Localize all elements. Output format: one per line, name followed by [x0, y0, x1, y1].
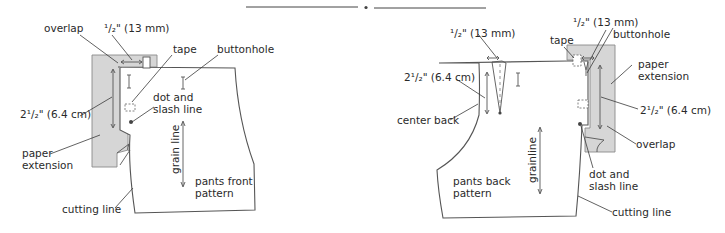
back-label-center-back: center back [397, 114, 460, 126]
front-label-buttonhole: buttonhole [217, 43, 274, 55]
front-label-two-half-inch: 2¹/₂" (6.4 cm) [20, 108, 91, 120]
front-label-grain-line: grain line [169, 125, 181, 174]
front-label-overlap: overlap [44, 22, 84, 34]
front-label-tape: tape [173, 43, 197, 55]
back-label-buttonhole: buttonhole [613, 28, 670, 40]
back-label-overlap: overlap [636, 138, 676, 150]
section-separator [246, 6, 486, 9]
front-label-paper-2: extension [22, 159, 73, 171]
front-label-pattern-1: pants front [195, 175, 253, 187]
back-label-paper-2: extension [638, 70, 689, 82]
back-label-pattern-2: pattern [453, 187, 492, 199]
front-label-dot-slash-1: dot and [153, 91, 193, 103]
back-label-tape: tape [550, 34, 574, 46]
back-label-paper-1: paper [638, 58, 669, 70]
back-label-two-half-inch-dart: 2¹/₂" (6.4 cm) [404, 71, 475, 83]
back-label-two-half-inch-ext: 2¹/₂" (6.4 cm) [640, 104, 711, 116]
back-label-half-inch-dart: ¹/₂" (13 mm) [450, 27, 515, 39]
back-label-grainline: grainline [526, 137, 538, 183]
front-label-half-inch: ¹/₂" (13 mm) [104, 22, 169, 34]
back-label-pattern-1: pants back [453, 175, 512, 187]
back-label-cutting-line: cutting line [612, 206, 671, 218]
front-label-cutting-line: cutting line [62, 203, 121, 215]
front-pattern-outline [118, 67, 255, 213]
back-label-half-inch-ext: ¹/₂" (13 mm) [573, 16, 638, 28]
front-label-pattern-2: pattern [195, 187, 234, 199]
pants-pattern-zipper-diagram: overlap ¹/₂" (13 mm) tape buttonhole 2¹/… [0, 0, 725, 233]
back-label-dot-slash-1: dot and [589, 168, 629, 180]
front-label-dot-slash-2: slash line [153, 103, 202, 115]
back-label-dot-slash-2: slash line [589, 180, 638, 192]
front-label-paper-1: paper [22, 147, 53, 159]
